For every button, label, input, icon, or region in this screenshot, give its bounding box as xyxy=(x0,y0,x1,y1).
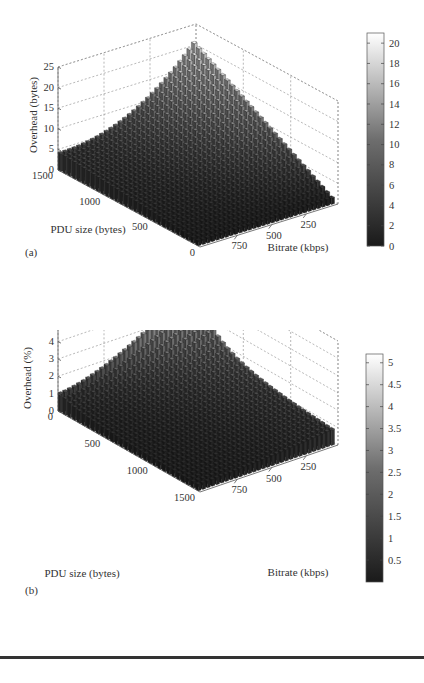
bitrate-tick-b: 250 xyxy=(300,461,316,472)
colorbar-tick-b: 0.5 xyxy=(388,555,401,566)
z-tick-b: 4 xyxy=(49,336,55,347)
colorbar-tick-b: 4.5 xyxy=(388,379,401,390)
colorbar-tick-a: 18 xyxy=(389,58,400,69)
z-axis-label-a: Overhead (bytes) xyxy=(27,77,40,153)
panel-label-b: (b) xyxy=(25,584,38,597)
bitrate-tick-b: 500 xyxy=(266,473,282,484)
bars-b xyxy=(58,330,335,491)
pdu-tick-b: 500 xyxy=(85,438,101,449)
colorbar-b: 0.511.522.533.544.55 xyxy=(366,354,401,582)
colorbar-tick-b: 2 xyxy=(388,489,393,500)
panel-a-overhead-bytes-chart: 0510152025150010005000750500250 Overhead… xyxy=(0,0,424,330)
pdu-tick-a: 500 xyxy=(132,221,148,232)
figure-bottom-rule xyxy=(0,656,424,659)
pdu-tick-a: 1500 xyxy=(32,170,53,181)
bars-a xyxy=(58,41,335,246)
bitrate-tick-b: 750 xyxy=(231,484,247,495)
colorbar-tick-a: 0 xyxy=(389,241,394,252)
colorbar-tick-a: 16 xyxy=(389,78,400,89)
bitrate-axis-label-a: Bitrate (kbps) xyxy=(268,241,329,254)
bitrate-tick-a: 500 xyxy=(266,230,282,241)
z-tick-a: 20 xyxy=(44,82,55,93)
chart-a-svg: 0510152025150010005000750500250 Overhead… xyxy=(0,0,424,330)
pdu-tick-a: 1000 xyxy=(79,196,100,207)
colorbar-tick-a: 12 xyxy=(389,119,400,130)
z-tick-a: 25 xyxy=(44,61,55,72)
panel-b-overhead-percent-chart: 0123456050010001500750500250 Overhead (%… xyxy=(0,330,424,660)
panel-label-a: (a) xyxy=(25,246,38,259)
colorbar-tick-a: 14 xyxy=(389,99,400,110)
bitrate-tick-a: 250 xyxy=(300,219,316,230)
colorbar-tick-a: 6 xyxy=(389,180,394,191)
colorbar-tick-b: 4 xyxy=(388,401,394,412)
z-tick-b: 1 xyxy=(49,388,54,399)
z-axis-label-b: Overhead (%) xyxy=(21,347,34,409)
z-tick-a: 5 xyxy=(49,143,54,154)
pdu-tick-b: 1500 xyxy=(174,492,195,503)
colorbar-tick-b: 5 xyxy=(388,357,393,368)
colorbar-tick-a: 10 xyxy=(389,139,400,150)
colorbar-tick-b: 3.5 xyxy=(388,423,401,434)
bitrate-tick-a: 750 xyxy=(231,240,247,251)
bitrate-axis-label-b: Bitrate (kbps) xyxy=(268,566,329,579)
z-tick-a: 10 xyxy=(44,123,55,134)
pdu-axis-label-a: PDU size (bytes) xyxy=(50,223,125,236)
colorbar-a: 02468101214161820 xyxy=(367,33,400,252)
z-tick-b: 2 xyxy=(49,370,54,381)
colorbar-tick-b: 2.5 xyxy=(388,467,401,478)
pdu-tick-b: 1000 xyxy=(127,465,148,476)
pdu-axis-label-b: PDU size (bytes) xyxy=(44,567,119,580)
colorbar-tick-b: 1 xyxy=(388,533,393,544)
pdu-tick-a: 0 xyxy=(190,247,195,258)
colorbar-tick-b: 1.5 xyxy=(388,511,401,522)
colorbar-tick-a: 4 xyxy=(389,200,395,211)
pdu-tick-b: 0 xyxy=(48,411,53,422)
colorbar-tick-b: 3 xyxy=(388,445,393,456)
chart-b-svg: 0123456050010001500750500250 Overhead (%… xyxy=(0,330,424,660)
colorbar-tick-a: 8 xyxy=(389,159,394,170)
colorbar-tick-a: 2 xyxy=(389,220,394,231)
z-tick-b: 3 xyxy=(49,353,54,364)
z-tick-a: 15 xyxy=(44,102,55,113)
colorbar-tick-a: 20 xyxy=(389,38,400,49)
